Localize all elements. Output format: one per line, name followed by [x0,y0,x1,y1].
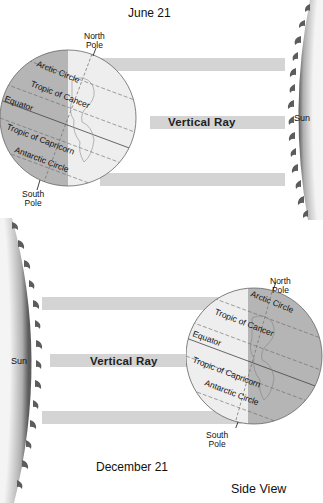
december-title: December 21 [96,460,168,474]
june-title: June 21 [128,6,171,20]
vertical-ray-label-top: Vertical Ray [168,116,236,128]
earth-globe-december: Arctic Circle Tropic of Cancer Equator T… [186,278,323,428]
earth-globe-june: Arctic Circle Tropic of Cancer Equator T… [0,40,140,190]
sun-label-top: Sun [294,113,310,123]
south-pole-label-bottom: South Pole [206,431,228,449]
side-view-caption: Side View [231,482,286,496]
vertical-ray-label-bottom: Vertical Ray [90,355,158,367]
sun-icon-top [270,0,323,220]
sun-label-bottom: Sun [11,356,27,366]
north-pole-label-top: North Pole [84,32,105,50]
south-pole-label-top: South Pole [22,190,44,208]
sun-icon-bottom [0,218,55,503]
north-pole-label-bottom: North Pole [270,277,291,295]
